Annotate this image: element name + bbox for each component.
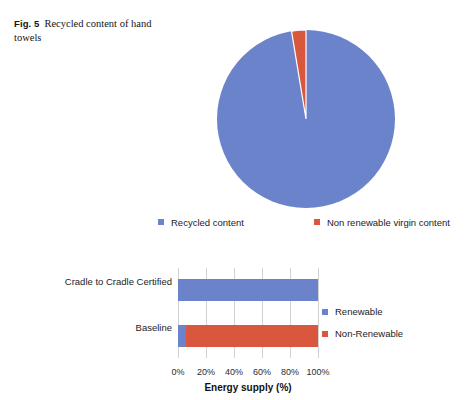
x-gridline [318, 268, 319, 358]
bar-chart-legend: Renewable Non-Renewable [322, 306, 452, 350]
legend-swatch-icon [322, 309, 328, 315]
x-tick-label: 100% [303, 367, 333, 377]
figure-number: Fig. 5 [14, 18, 39, 29]
bar-row [178, 325, 318, 347]
bar-plot-area [178, 268, 318, 358]
legend-swatch-icon [314, 219, 320, 225]
legend-swatch-icon [158, 219, 164, 225]
x-axis-title: Energy supply (%) [178, 382, 318, 393]
x-tick-label: 40% [219, 367, 249, 377]
legend-label: Renewable [335, 306, 383, 317]
legend-item-non-renewable-virgin-content: Non renewable virgin content [314, 217, 450, 228]
legend-label: Non renewable virgin content [327, 217, 450, 228]
legend-swatch-icon [322, 331, 328, 337]
pie-chart-svg [214, 27, 398, 211]
legend-label: Non-Renewable [335, 328, 403, 339]
bar-segment-renewable [178, 325, 186, 347]
pie-chart-legend: Recycled content Non renewable virgin co… [158, 214, 458, 230]
legend-label: Recycled content [171, 217, 244, 228]
x-tick-label: 20% [191, 367, 221, 377]
bar-segment-renewable [178, 279, 318, 301]
legend-item-recycled-content: Recycled content [158, 217, 244, 228]
legend-item-non-renewable: Non-Renewable [322, 328, 452, 339]
legend-item-renewable: Renewable [322, 306, 452, 317]
bar-category-label-cradle-to-cradle-certified: Cradle to Cradle Certified [4, 276, 172, 287]
x-tick-label: 80% [275, 367, 305, 377]
pie-chart [214, 27, 398, 211]
x-tick-label: 0% [163, 367, 193, 377]
x-tick-label: 60% [247, 367, 277, 377]
bar-segment-non-renewable [186, 325, 318, 347]
bar-category-label-baseline: Baseline [4, 322, 172, 333]
figure-caption: Fig. 5Recycled content of hand towels [14, 17, 164, 45]
bar-row [178, 279, 318, 301]
